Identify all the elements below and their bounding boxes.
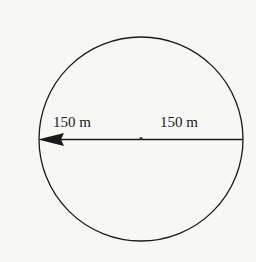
circle-diagram: 150 m 150 m	[0, 0, 256, 262]
center-point	[139, 137, 142, 140]
left-radius-label: 150 m	[53, 114, 91, 130]
arrowhead-icon	[38, 133, 64, 146]
right-radius-label: 150 m	[160, 114, 198, 130]
